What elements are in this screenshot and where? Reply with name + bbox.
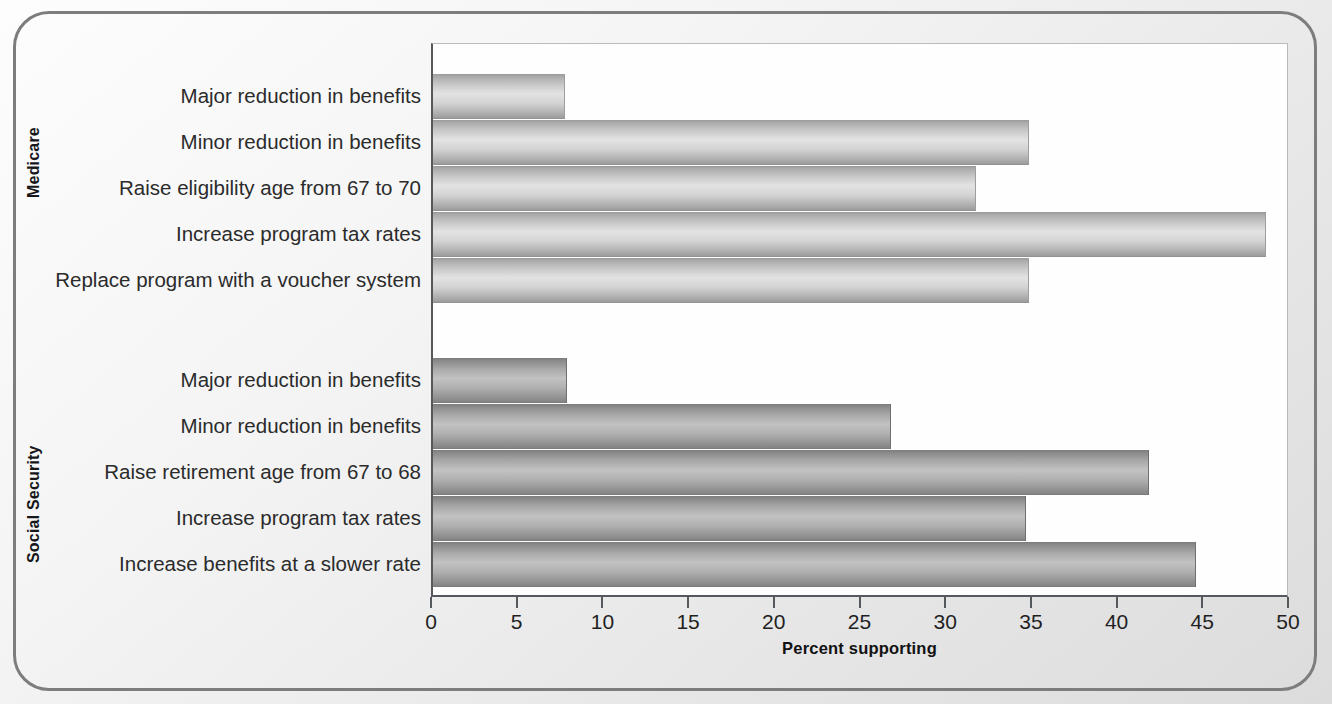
- x-axis-title: Percent supporting: [431, 639, 1288, 658]
- x-tick-mark: [601, 597, 603, 608]
- category-label-medicare-5: Replace program with a voucher system: [55, 257, 421, 302]
- x-tick-label: 50: [1276, 610, 1299, 634]
- category-label-social-security-4: Increase program tax rates: [176, 495, 421, 540]
- x-tick-label: 15: [676, 610, 699, 634]
- bar-social-security-5: [433, 542, 1196, 587]
- bar-medicare-5: [433, 258, 1029, 303]
- x-tick-mark: [1030, 597, 1032, 608]
- chart-figure: Medicare Social Security Major reduction…: [0, 0, 1332, 704]
- x-tick-mark: [1116, 597, 1118, 608]
- x-tick-mark: [1287, 597, 1289, 608]
- x-tick-mark: [687, 597, 689, 608]
- bar-social-security-2: [433, 404, 891, 449]
- category-label-social-security-5: Increase benefits at a slower rate: [119, 541, 421, 586]
- category-label-medicare-4: Increase program tax rates: [176, 211, 421, 256]
- category-labels: Major reduction in benefits Minor reduct…: [0, 43, 431, 597]
- x-tick-mark: [773, 597, 775, 608]
- bar-medicare-3: [433, 166, 976, 211]
- x-tick-label: 30: [934, 610, 957, 634]
- x-tick-label: 0: [425, 610, 437, 634]
- category-label-social-security-1: Major reduction in benefits: [181, 357, 421, 402]
- bar-medicare-2: [433, 120, 1029, 165]
- plot-area: [431, 43, 1288, 597]
- x-tick-mark: [944, 597, 946, 608]
- x-tick-label: 45: [1191, 610, 1214, 634]
- bars-layer: [433, 44, 1287, 595]
- bar-medicare-1: [433, 74, 565, 119]
- category-label-social-security-2: Minor reduction in benefits: [181, 403, 421, 448]
- x-axis: 05101520253035404550 Percent supporting: [431, 597, 1288, 657]
- x-tick-label: 10: [591, 610, 614, 634]
- x-tick-mark: [859, 597, 861, 608]
- category-label-medicare-1: Major reduction in benefits: [181, 73, 421, 118]
- x-tick-label: 35: [1019, 610, 1042, 634]
- bar-medicare-4: [433, 212, 1266, 257]
- x-tick-label: 20: [762, 610, 785, 634]
- x-tick-label: 25: [848, 610, 871, 634]
- category-label-social-security-3: Raise retirement age from 67 to 68: [104, 449, 421, 494]
- x-tick-mark: [1201, 597, 1203, 608]
- x-tick-mark: [430, 597, 432, 608]
- category-label-medicare-3: Raise eligibility age from 67 to 70: [119, 165, 421, 210]
- x-tick-mark: [516, 597, 518, 608]
- x-tick-label: 40: [1105, 610, 1128, 634]
- bar-social-security-3: [433, 450, 1149, 495]
- x-tick-label: 5: [511, 610, 523, 634]
- bar-social-security-4: [433, 496, 1026, 541]
- category-label-medicare-2: Minor reduction in benefits: [181, 119, 421, 164]
- bar-social-security-1: [433, 358, 567, 403]
